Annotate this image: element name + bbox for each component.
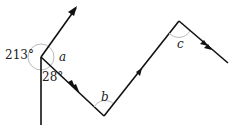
angle-label-213: 213° [5, 48, 34, 62]
angle-label-a: a [59, 50, 66, 64]
double-arrow-icon [72, 84, 80, 94]
angle-label-b: b [101, 90, 109, 104]
angle-label-c: c [177, 37, 184, 51]
angle-label-28: 28° [42, 70, 63, 84]
arrowhead-icon [68, 6, 77, 16]
angle-diagram: 213° a 28° b c [0, 0, 231, 131]
